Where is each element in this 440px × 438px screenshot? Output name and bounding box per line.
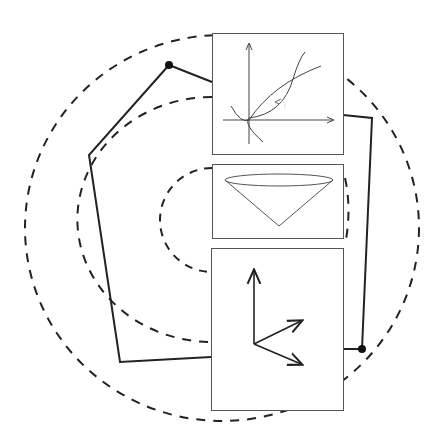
cone-shape [213, 165, 343, 238]
vertex-marker-top [165, 61, 173, 69]
cone-panel [212, 164, 344, 239]
inner-dashed-arc [160, 168, 212, 272]
vectors-panel [211, 248, 344, 411]
cone-sides [225, 180, 333, 226]
middle-dashed-arc-right [345, 178, 349, 245]
cone-rim [225, 174, 333, 186]
vectors-graph [212, 249, 343, 410]
middle-dashed-arc [77, 97, 212, 342]
curves-panel [212, 33, 344, 155]
curves-graph [213, 34, 343, 154]
vector-lower-right [254, 344, 301, 364]
curve-a [231, 66, 321, 121]
polygon-path [89, 65, 212, 362]
vector-upper-right [254, 321, 301, 344]
curve-b [248, 52, 305, 142]
vertex-marker-bottom-right [358, 345, 366, 353]
